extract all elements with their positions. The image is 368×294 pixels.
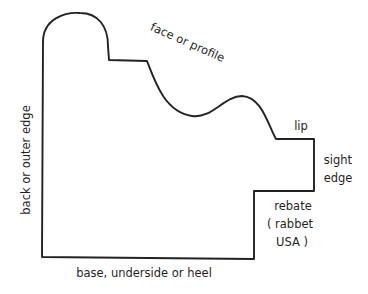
- label-rebate-line2: ( rabbet: [267, 217, 314, 231]
- label-rebate-line1: rebate: [274, 199, 311, 213]
- label-face-or-profile: face or profile: [148, 20, 227, 65]
- label-sight-edge-line1: sight: [324, 153, 353, 167]
- label-lip: lip: [294, 119, 308, 133]
- moulding-profile-diagram: face or profile lip sight edge rebate ( …: [0, 0, 368, 294]
- label-sight-edge-line2: edge: [324, 171, 353, 185]
- label-base: base, underside or heel: [76, 266, 212, 280]
- label-rebate-line3: USA ): [276, 235, 308, 249]
- label-back-or-outer-edge: back or outer edge: [19, 105, 33, 214]
